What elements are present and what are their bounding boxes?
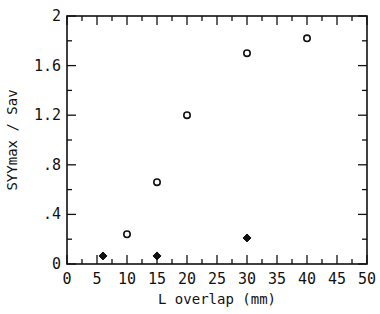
- x-tick-label: 30: [238, 270, 256, 288]
- filled-diamond-marker: [153, 252, 161, 260]
- open-circle-marker: [304, 35, 310, 41]
- x-tick-label: 45: [328, 270, 346, 288]
- x-tick-label: 20: [178, 270, 196, 288]
- open-circle-marker: [184, 112, 190, 118]
- y-axis-title: SYYmax / Sav: [4, 89, 20, 190]
- filled-diamond-marker: [243, 234, 251, 242]
- open-circle-marker: [244, 50, 250, 56]
- x-axis-tick-labels: 05101520253035404550: [62, 270, 376, 288]
- y-tick-label: 1.6: [34, 57, 61, 75]
- plot-border: [67, 16, 367, 264]
- open-circle-marker: [124, 231, 130, 237]
- x-tick-label: 5: [92, 270, 101, 288]
- x-tick-label: 15: [148, 270, 166, 288]
- filled-diamond-marker: [99, 252, 107, 260]
- y-tick-label: 0: [52, 255, 61, 273]
- y-tick-label: .8: [43, 156, 61, 174]
- scatter-chart: 05101520253035404550 0.4.81.21.62 L over…: [0, 0, 380, 314]
- x-axis-title: L overlap (mm): [158, 291, 276, 307]
- x-tick-label: 50: [358, 270, 376, 288]
- x-tick-label: 0: [62, 270, 71, 288]
- y-tick-label: .4: [43, 205, 61, 223]
- y-axis-tick-labels: 0.4.81.21.62: [34, 7, 61, 273]
- x-tick-label: 25: [208, 270, 226, 288]
- open-circle-marker: [154, 179, 160, 185]
- y-tick-label: 1.2: [34, 106, 61, 124]
- x-tick-label: 35: [268, 270, 286, 288]
- plot-frame: [67, 16, 367, 264]
- axis-ticks: [67, 16, 367, 264]
- data-points: [99, 35, 310, 260]
- x-tick-label: 10: [118, 270, 136, 288]
- y-tick-label: 2: [52, 7, 61, 25]
- x-tick-label: 40: [298, 270, 316, 288]
